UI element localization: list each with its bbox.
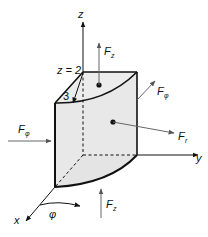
z-axis-label: z — [77, 8, 84, 20]
svg-text:z: z — [110, 52, 115, 59]
fphi-right-label: F φ — [157, 85, 169, 100]
svg-text:φ: φ — [25, 130, 30, 138]
fz-top-label: F z — [104, 45, 115, 59]
radius-label: 3 — [63, 90, 69, 102]
phi-label: φ — [49, 208, 56, 220]
svg-text:z: z — [112, 205, 117, 212]
y-axis-label: y — [195, 152, 203, 164]
x-axis-label: x — [13, 214, 20, 226]
phi-rotation-arrow — [40, 203, 80, 206]
fz-bottom-label: F z — [106, 198, 117, 212]
fphi-right-arrow — [137, 81, 155, 100]
svg-text:φ: φ — [164, 92, 169, 100]
svg-text:r: r — [185, 137, 188, 144]
z-equals-label: z = 2 — [56, 64, 81, 76]
fr-label: F r — [178, 130, 188, 144]
cylindrical-wedge-diagram: z y x z = 2 3 φ F z F φ F r F φ F z — [0, 0, 208, 237]
fphi-left-label: F φ — [18, 123, 30, 138]
